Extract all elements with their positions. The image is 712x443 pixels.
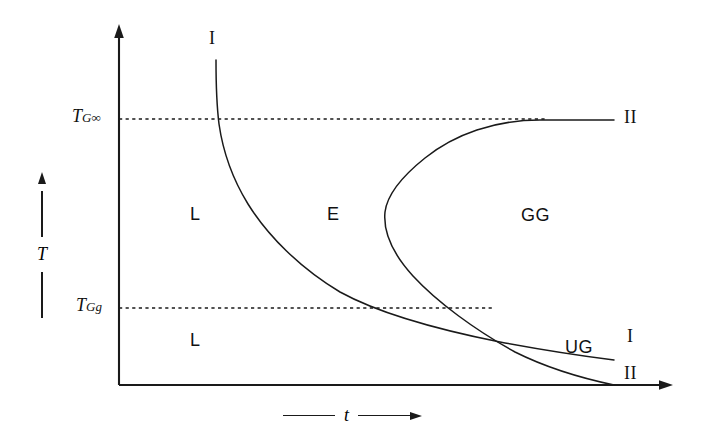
- region-label-gg: GG: [521, 206, 550, 224]
- y-axis-arrowhead: [114, 24, 124, 38]
- x-caption-arrowhead-icon: [410, 412, 422, 420]
- y-caption-rule-top: [41, 191, 43, 237]
- x-axis-arrowhead: [659, 380, 673, 390]
- x-axis-caption: t: [283, 405, 422, 426]
- curve-label-two-lower: II: [624, 364, 637, 382]
- y-caption-rule-bottom: [41, 272, 43, 318]
- x-caption-arrow-group: [358, 412, 422, 420]
- phase-diagram-figure: TG∞ TGg L E GG L UG I II I II t T: [0, 0, 712, 443]
- region-label-e: E: [327, 205, 340, 223]
- x-caption-rule-left: [283, 415, 335, 417]
- x-caption-rule-right: [358, 415, 410, 417]
- tick-label-tg-infinity: TG∞: [72, 107, 101, 125]
- x-axis-title: t: [344, 405, 349, 426]
- curve-one: [216, 60, 614, 360]
- y-axis-caption: T: [37, 172, 47, 318]
- curve-label-one-top: I: [209, 29, 216, 47]
- region-label-ug: UG: [565, 338, 593, 356]
- y-axis-title: T: [37, 244, 47, 265]
- y-caption-arrowhead-icon: [38, 172, 46, 184]
- region-label-liquid-upper: L: [190, 205, 201, 223]
- region-label-liquid-lower: L: [190, 331, 201, 349]
- tick-subscript-tg-g: Gg: [86, 299, 102, 314]
- curve-label-one-lower: I: [627, 327, 634, 345]
- diagram-canvas: [0, 0, 712, 443]
- tick-symbol-tg-g: T: [76, 295, 86, 315]
- tick-symbol-tg-infinity: T: [72, 106, 82, 126]
- tick-label-tg-g: TGg: [76, 296, 102, 314]
- tick-subscript-tg-infinity: G∞: [82, 110, 101, 125]
- curve-label-two-upper: II: [624, 108, 637, 126]
